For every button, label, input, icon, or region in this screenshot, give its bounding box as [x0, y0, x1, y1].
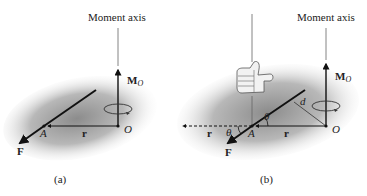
moment-axis-label-a: Moment axis [88, 11, 146, 23]
r-label-b: r [284, 127, 289, 139]
r-extended-label: r [207, 127, 212, 139]
panel-a: Moment axis MO r O A F (a) [0, 11, 165, 186]
r-label-a: r [82, 127, 87, 139]
A-label-a: A [39, 127, 47, 139]
O-label-a: O [124, 123, 132, 135]
point-O-b [324, 124, 327, 127]
moment-label-b: MO [335, 70, 351, 84]
O-label-b: O [332, 123, 340, 135]
point-O-a [116, 124, 119, 127]
theta-label-1: θ [264, 110, 270, 122]
A-label-b: A [247, 127, 255, 139]
d-label: d [300, 95, 306, 107]
theta-label-2: θ [226, 126, 232, 138]
moment-label-a: MO [127, 74, 143, 88]
F-label-a: F [17, 145, 24, 157]
F-label-b: F [225, 146, 232, 158]
moment-diagram: Moment axis MO r O A F (a) Moment axis [0, 0, 367, 196]
moment-axis-label-b: Moment axis [297, 11, 355, 23]
panel-b: Moment axis MO d r r O [169, 11, 366, 186]
caption-b: (b) [260, 173, 273, 186]
caption-a: (a) [54, 173, 67, 186]
